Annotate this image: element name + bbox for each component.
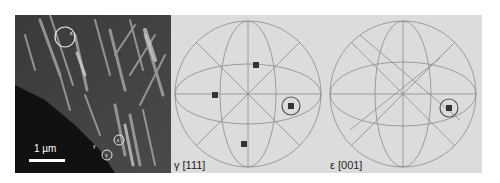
- figure: ε ε γ γ 1 µm: [15, 15, 482, 173]
- stereogram-gamma: [171, 15, 328, 173]
- stereogram-gamma-label: γ [111]: [174, 159, 205, 171]
- svg-text:ε: ε: [70, 30, 73, 36]
- micrograph-image: ε ε γ γ 1 µm: [15, 15, 171, 173]
- stereogram-epsilon: [328, 15, 482, 173]
- scale-bar-label: 1 µm: [34, 143, 56, 154]
- stereogram-epsilon-label: ε [001]: [330, 159, 362, 171]
- scale-bar: [29, 159, 65, 162]
- stereogram-gamma-panel: γ [111]: [171, 15, 328, 173]
- stereogram-epsilon-panel: ε [001]: [328, 15, 482, 173]
